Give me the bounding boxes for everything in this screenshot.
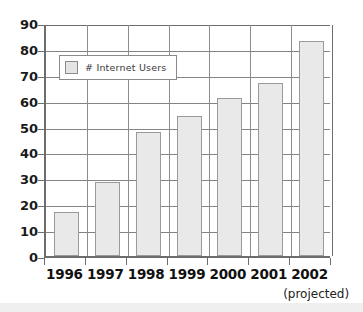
x-axis-tick-mark [330, 258, 331, 265]
category-separator [209, 25, 210, 256]
x-axis-tick-mark [85, 258, 86, 265]
projected-annotation: (projected) [283, 287, 324, 301]
category-separator [250, 25, 251, 256]
gridline [46, 51, 330, 52]
legend: # Internet Users [59, 55, 177, 80]
x-axis-tick-mark [248, 258, 249, 265]
gridline [46, 129, 330, 130]
gridline [46, 154, 330, 155]
x-axis-tick-mark [289, 258, 290, 265]
bar [299, 41, 324, 256]
gridline [46, 232, 330, 233]
x-axis-tick-label: 2001 [248, 266, 289, 282]
x-axis-tick-mark [207, 258, 208, 265]
bar [177, 116, 202, 256]
bar [95, 182, 120, 256]
page-edge-band [0, 303, 363, 312]
y-axis-ticks [0, 25, 44, 258]
category-separator [291, 25, 292, 256]
x-axis-tick-mark [167, 258, 168, 265]
x-axis-tick-label: 1996 [44, 266, 85, 282]
x-axis-tick-label: 1998 [126, 266, 167, 282]
legend-swatch-internet-users [65, 61, 78, 74]
x-axis-ticks [44, 258, 330, 265]
x-axis-tick-label: 2000 [207, 266, 248, 282]
bar-chart-figure: 0102030405060708090 19961997199819992000… [0, 0, 363, 312]
bar [258, 83, 283, 256]
x-axis-tick-label: 1997 [85, 266, 126, 282]
x-axis-tick-label: 1999 [167, 266, 208, 282]
bar [217, 98, 242, 256]
bar [54, 212, 79, 256]
category-separator [332, 25, 333, 256]
x-axis-tick-label: 2002 [289, 266, 330, 282]
legend-label-internet-users: # Internet Users [85, 62, 167, 73]
gridline [46, 103, 330, 104]
gridline [46, 180, 330, 181]
x-axis-tick-mark [44, 258, 45, 265]
x-axis-labels: 1996199719981999200020012002 [44, 266, 330, 286]
x-axis-tick-mark [126, 258, 127, 265]
gridline [46, 206, 330, 207]
gridline [46, 25, 330, 26]
bar [136, 132, 161, 256]
